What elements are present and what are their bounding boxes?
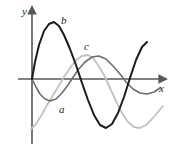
x-axis-label: x [159,83,164,94]
curve-label-b: b [61,15,67,26]
curve-label-c: c [84,41,89,52]
plot-canvas [0,0,172,152]
y-axis-label: y [22,6,27,17]
math-graph-figure: b c a y x [0,0,172,152]
curve-b [32,22,147,128]
curve-c [31,55,163,129]
curve-label-a: a [59,104,65,115]
